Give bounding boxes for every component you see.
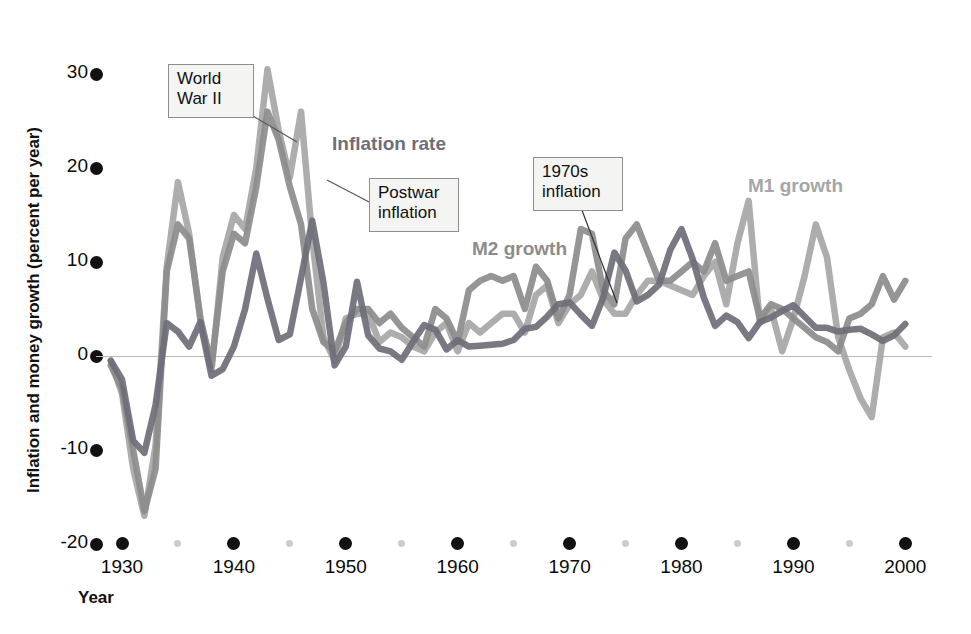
chart-figure: Inflation and money growth (percent per … <box>0 0 971 634</box>
series-label-inflation-rate: Inflation rate <box>332 133 446 155</box>
leader-line-seventies <box>580 205 617 303</box>
annotation-leader-lines <box>0 0 971 634</box>
series-label-m2-growth: M2 growth <box>472 238 567 260</box>
leader-line-postwar <box>327 180 371 203</box>
annotation-world-war-ii: World War II <box>168 64 254 118</box>
annotation-1970s-inflation: 1970s inflation <box>533 157 623 211</box>
annotation-postwar-inflation: Postwar inflation <box>369 178 459 232</box>
leader-line-ww2 <box>253 116 297 142</box>
series-label-m1-growth: M1 growth <box>748 175 843 197</box>
